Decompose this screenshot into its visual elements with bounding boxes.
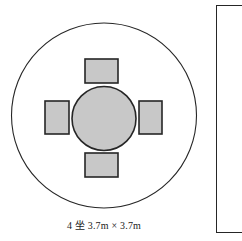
chair-left [45,101,69,134]
figure-caption: 4 坐 3.7m × 3.7m [0,219,208,232]
figure-page: 4 坐 3.7m × 3.7m [0,0,242,241]
chair-top [85,59,118,83]
plan-svg-canvas [0,0,208,241]
chair-right [139,101,162,134]
chair-bottom [85,153,118,177]
adjacent-panel-frame [216,5,242,233]
table-plan-diagram: 4 坐 3.7m × 3.7m [0,0,208,241]
round-table [72,87,136,151]
